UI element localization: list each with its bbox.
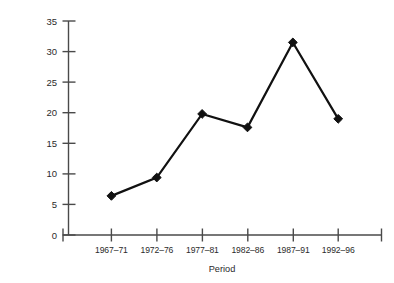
x-tick-label-1: 1972–76	[141, 245, 174, 255]
y-tick-label-30: 30	[46, 46, 57, 57]
y-tick-label-10: 10	[46, 168, 57, 179]
x-tick-label-3: 1982–86	[231, 245, 264, 255]
series-markers	[107, 38, 343, 200]
y-tick-label-0: 0	[52, 230, 57, 241]
y-tick-label-15: 15	[46, 138, 57, 149]
line-chart: 35 30 25 20 15 10 5 0 1967–71 1972–76 19…	[0, 0, 394, 283]
x-tick-label-4: 1987–91	[277, 245, 310, 255]
series-line-capital-loss	[111, 42, 338, 195]
y-tick-label-25: 25	[46, 77, 57, 88]
y-tick-label-20: 20	[46, 107, 57, 118]
data-point-0	[107, 191, 116, 200]
x-tick-label-2: 1977–81	[186, 245, 219, 255]
x-tick-label-5: 1992–96	[322, 245, 355, 255]
x-tick-label-0: 1967–71	[95, 245, 128, 255]
chart-canvas: 35 30 25 20 15 10 5 0 1967–71 1972–76 19…	[0, 0, 394, 283]
x-axis-title: Period	[209, 264, 236, 274]
y-tick-label-35: 35	[46, 16, 57, 27]
data-point-3	[243, 123, 252, 132]
y-tick-label-5: 5	[52, 199, 57, 210]
